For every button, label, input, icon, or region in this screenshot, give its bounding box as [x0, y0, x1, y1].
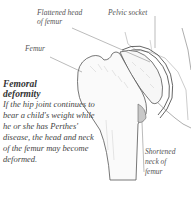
caption-title-line2: deformity: [3, 89, 73, 99]
label-flattened-head-line2: of femur: [37, 18, 82, 27]
label-shortened-neck-line1: Shortened: [145, 147, 175, 157]
label-shortened-neck-line2: neck of: [145, 157, 175, 167]
label-pelvic-socket: Pelvic socket: [108, 9, 147, 18]
caption-title: Femoral deformity: [3, 79, 73, 99]
label-shortened-neck: Shortened neck of femur: [145, 147, 175, 177]
caption-title-line1: Femoral: [3, 79, 73, 89]
caption-body: If the hip joint continues to bear a chi…: [3, 99, 98, 165]
label-femur: Femur: [25, 45, 45, 54]
label-shortened-neck-line3: femur: [145, 167, 175, 177]
label-flattened-head: Flattened head of femur: [37, 9, 82, 26]
